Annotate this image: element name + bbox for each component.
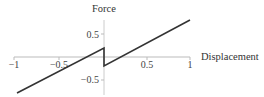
y-tick-label: −0.5: [81, 74, 99, 85]
x-tick-label: 0.5: [141, 59, 154, 70]
x-tick-label: −1: [9, 59, 20, 70]
chart: −1 −0.5 0.5 1 0.5 −0.5 Force Displacemen…: [0, 0, 264, 97]
x-axis-label: Displacement: [201, 51, 259, 62]
y-axis-label: Force: [92, 3, 116, 14]
y-tick-label: 0.5: [87, 29, 100, 40]
x-tick-label: 1: [188, 59, 193, 70]
